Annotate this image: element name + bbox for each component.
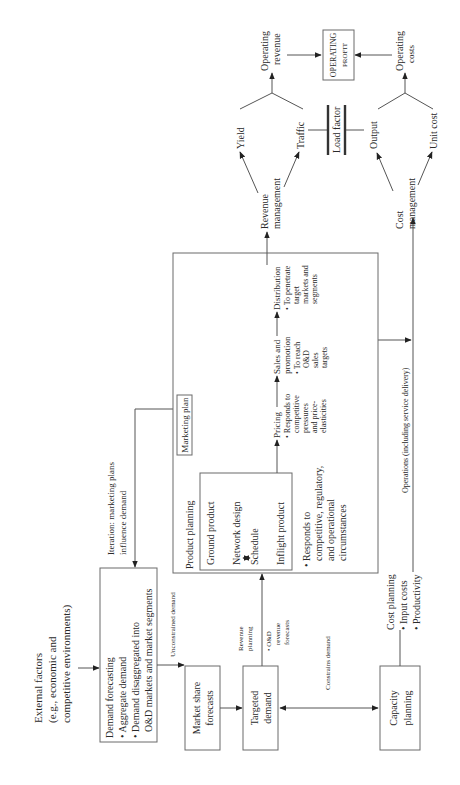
external-factors-label: External factors (e.g., economic and com… — [32, 604, 73, 723]
operating-revenue-node: Operating revenue — [259, 31, 282, 71]
svg-text:costs: costs — [406, 45, 416, 63]
svg-text:• Input costs: • Input costs — [398, 580, 409, 630]
marketing-plan-box: Marketing plan — [177, 395, 192, 455]
output-label: Output — [368, 121, 379, 149]
cost-planning-label: Cost planning • Input costs • Productivi… — [385, 574, 422, 630]
traffic-label: Traffic — [295, 121, 306, 149]
svg-text:Ground product: Ground product — [205, 501, 216, 565]
capacity-planning-box: Capacity planning — [380, 666, 420, 750]
svg-text:Revenue: Revenue — [259, 193, 270, 229]
svg-text:Demand forecasting: Demand forecasting — [104, 657, 115, 738]
market-share-forecasts-box: Market share forecasts — [185, 666, 220, 750]
svg-text:management: management — [406, 178, 417, 229]
svg-text:segments: segments — [310, 274, 319, 304]
svg-text:demand: demand — [262, 692, 273, 724]
iteration-label: Iteration: marketing plans influence dem… — [106, 462, 128, 555]
svg-text:competitive: competitive — [292, 395, 301, 433]
svg-text:competitive, regulatory,: competitive, regulatory, — [313, 466, 324, 561]
svg-text:OPERATING: OPERATING — [329, 33, 338, 78]
constrains-demand-label: Constrains demand — [324, 636, 332, 690]
svg-text:planning: planning — [402, 691, 413, 726]
yield-traffic-junction — [240, 93, 303, 109]
svg-text:Inflight product: Inflight product — [275, 502, 286, 565]
svg-text:• Productivity: • Productivity — [411, 575, 422, 630]
svg-text:elasticities: elasticities — [319, 399, 328, 433]
svg-text:• To penetrate: • To penetrate — [283, 265, 292, 310]
operating-profit-box: OPERATING PROFIT — [323, 30, 354, 80]
svg-text:• Aggregate demand: • Aggregate demand — [117, 657, 128, 738]
revenue-planning-label: Revenue planning • O&D revenue forecasts — [237, 620, 291, 651]
svg-text:forecasts: forecasts — [204, 690, 215, 726]
cost-management-node: Cost management — [394, 178, 417, 229]
svg-text:• Demand disaggregated into: • Demand disaggregated into — [130, 622, 141, 738]
svg-text:Network design: Network design — [231, 501, 242, 565]
svg-text:O&D markets and market segment: O&D markets and market segments — [143, 589, 154, 732]
svg-text:PROFIT: PROFIT — [341, 42, 349, 67]
svg-text:sales: sales — [311, 352, 320, 368]
revenue-mgmt-to-traffic-arrow — [284, 152, 299, 187]
operations-label: Operations (including service delivery) — [401, 367, 410, 493]
svg-text:Cost: Cost — [394, 210, 405, 229]
product-subbox: Ground product Network design Schedule I… — [200, 473, 292, 570]
cost-mgmt-to-unitcost-arrow — [418, 152, 432, 185]
svg-text:target: target — [292, 285, 301, 304]
svg-text:Schedule: Schedule — [249, 528, 260, 565]
svg-text:forecasts: forecasts — [283, 620, 291, 645]
targeted-demand-box: Targeted demand — [243, 666, 278, 750]
svg-text:revenue: revenue — [274, 623, 282, 645]
output-unitcost-junction — [378, 93, 433, 109]
svg-text:• Responds to: • Responds to — [283, 394, 292, 438]
cost-mgmt-to-output-arrow — [377, 153, 393, 191]
svg-text:Pricing: Pricing — [272, 412, 282, 438]
svg-text:Cost planning: Cost planning — [385, 574, 396, 630]
svg-text:Targeted: Targeted — [249, 691, 260, 726]
svg-text:Marketing plan: Marketing plan — [180, 397, 190, 453]
product-planning-label: Product planning — [184, 500, 195, 569]
svg-text:External factors: External factors — [32, 653, 44, 723]
operating-costs-node: Operating costs — [394, 31, 416, 71]
unit-cost-label: Unit cost — [428, 112, 439, 149]
svg-text:Distribution: Distribution — [272, 266, 282, 310]
airline-planning-diagram: External factors (e.g., economic and com… — [0, 0, 460, 785]
svg-text:• To reach: • To reach — [293, 342, 302, 374]
svg-text:management: management — [271, 178, 282, 229]
svg-text:targets: targets — [320, 347, 329, 368]
svg-text:and operational: and operational — [325, 499, 336, 561]
svg-text:pressures: pressures — [301, 403, 310, 433]
svg-text:O&D: O&D — [302, 350, 311, 368]
svg-text:Operating: Operating — [259, 31, 270, 71]
svg-text:Capacity: Capacity — [388, 690, 399, 726]
svg-text:circumstances: circumstances — [337, 504, 348, 561]
svg-text:promotion: promotion — [282, 336, 292, 374]
svg-text:• O&D: • O&D — [265, 631, 273, 651]
revenue-mgmt-to-yield-arrow — [240, 152, 258, 193]
svg-text:Revenue: Revenue — [237, 627, 245, 652]
svg-text:Sales and: Sales and — [272, 339, 282, 374]
svg-text:Iteration: marketing plans: Iteration: marketing plans — [106, 462, 116, 555]
load-factor-label: Load factor — [331, 106, 342, 153]
svg-text:revenue: revenue — [271, 33, 282, 65]
revenue-management-node: Revenue management — [259, 178, 282, 229]
svg-text:planning: planning — [246, 626, 254, 651]
iteration-arrow — [135, 409, 173, 567]
unconstrained-demand-label: Unconstrained demand — [169, 592, 177, 657]
svg-text:markets and: markets and — [301, 265, 310, 304]
svg-text:Market share: Market share — [191, 681, 202, 734]
svg-text:influence demand: influence demand — [118, 490, 128, 555]
svg-text:Operating: Operating — [394, 31, 405, 71]
svg-text:(e.g., economic and: (e.g., economic and — [46, 636, 59, 723]
yield-label: Yield — [235, 127, 246, 149]
demand-forecasting-box: Demand forecasting • Aggregate demand • … — [100, 568, 157, 742]
svg-text:competitive environments): competitive environments) — [60, 604, 73, 723]
svg-text:• Responds to: • Responds to — [301, 512, 312, 567]
svg-text:and price-: and price- — [310, 400, 319, 433]
